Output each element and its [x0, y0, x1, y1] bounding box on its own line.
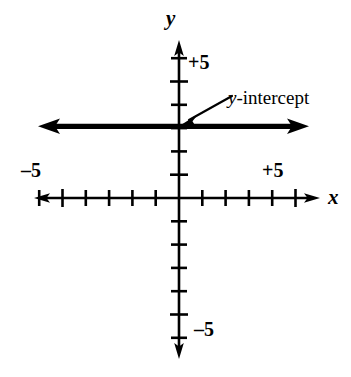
y-axis-label: y [166, 8, 175, 29]
y-intercept-leader-arrow [180, 96, 232, 126]
coordinate-plane-figure: y x +5 –5 +5 –5 y-intercept [0, 0, 351, 377]
y-axis-positive-five-label: +5 [188, 52, 209, 72]
y-intercept-annotation-label: y-intercept [228, 88, 309, 107]
x-axis-negative-five-label: –5 [21, 160, 41, 180]
x-axis-label: x [328, 187, 339, 208]
y-axis [170, 40, 188, 359]
graphed-line-y-equals-3 [38, 119, 309, 134]
y-axis-negative-five-label: –5 [194, 319, 214, 339]
graph-canvas [0, 0, 351, 377]
x-axis [34, 189, 320, 207]
y-intercept-label-word: -intercept [236, 87, 309, 108]
x-axis-positive-five-label: +5 [262, 160, 283, 180]
